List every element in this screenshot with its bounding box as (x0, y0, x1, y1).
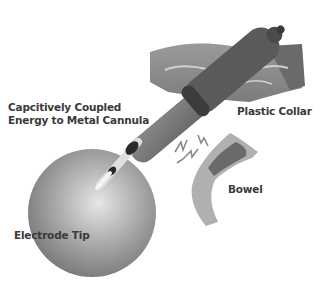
diagram-canvas (0, 0, 320, 285)
sphere (28, 149, 156, 277)
energy-sparks (175, 135, 208, 163)
plastic-collar-label: Plastic Collar (237, 105, 312, 118)
capacitive-label-line1: Capcitively Coupled (8, 101, 149, 114)
bowel (192, 133, 258, 226)
capacitive-label-line2: Energy to Metal Cannula (8, 114, 149, 127)
bowel-label: Bowel (228, 183, 263, 196)
capacitive-coupling-label: Capcitively Coupled Energy to Metal Cann… (8, 101, 149, 127)
electrode-tip-label: Electrode Tip (14, 229, 90, 242)
